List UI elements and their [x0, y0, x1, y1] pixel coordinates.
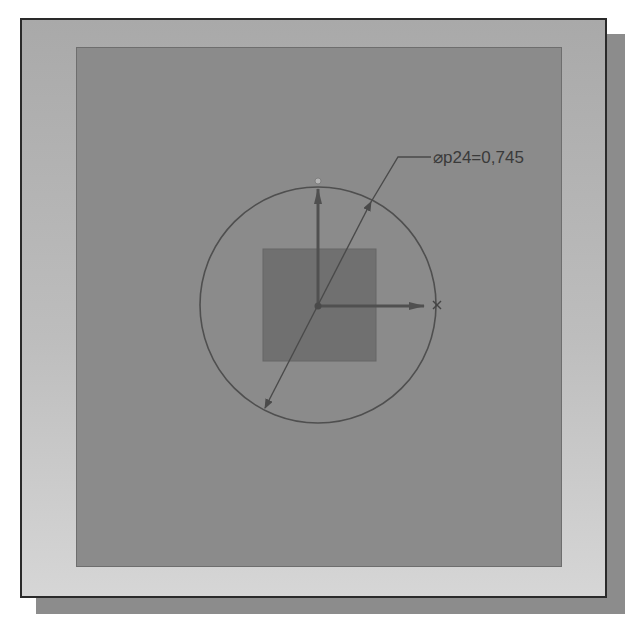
circle-point-marker-icon[interactable] [433, 301, 441, 309]
sketch-canvas[interactable]: ⌀p24=0,745 [0, 0, 634, 628]
circle-quadrant-point[interactable] [315, 178, 321, 184]
diameter-dimension-label[interactable]: ⌀p24=0,745 [433, 148, 524, 167]
